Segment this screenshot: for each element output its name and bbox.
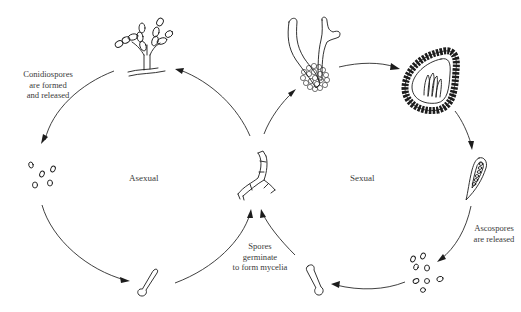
hyphae-fusing-icon xyxy=(288,17,340,91)
annotation-line: are formed xyxy=(13,80,83,91)
germinating-spore-right-icon xyxy=(306,265,323,295)
annotation-spores-germinate: Spores germinate to form mycelia xyxy=(224,241,296,273)
arrow-mycelium-to-hyphae xyxy=(264,89,296,134)
arrow-mycelium-to-conidiophore xyxy=(175,68,250,136)
mycelium-icon xyxy=(238,151,275,200)
conidiospores-icon xyxy=(28,162,56,188)
arrow-hyphae-to-ascocarp xyxy=(339,63,400,70)
ascospores-icon xyxy=(410,252,444,293)
annotation-line: germinate xyxy=(224,252,296,263)
annotation-conidiospores: Conidiospores are formed and released xyxy=(13,69,83,101)
label-sexual: Sexual xyxy=(350,173,375,184)
annotation-line: Conidiospores xyxy=(13,69,83,80)
annotation-ascospores: Ascospores are released xyxy=(466,223,521,244)
conidiophore-icon xyxy=(114,17,174,76)
ascus-icon xyxy=(466,158,487,200)
arrow-spores-to-germling xyxy=(42,205,130,283)
annotation-line: and released xyxy=(13,90,83,101)
ascocarp-icon xyxy=(405,51,456,111)
germinating-spore-left-icon xyxy=(138,269,158,296)
arrow-ascocarp-to-ascus xyxy=(455,111,474,150)
arrow-ascospores-to-germling xyxy=(331,281,405,289)
annotation-line: Ascospores xyxy=(466,223,521,234)
life-cycle-diagram: Asexual Sexual Conidiospores are formed … xyxy=(0,0,521,312)
annotation-line: are released xyxy=(466,234,521,245)
annotation-line: Spores xyxy=(224,241,296,252)
annotation-line: to form mycelia xyxy=(224,262,296,273)
label-asexual: Asexual xyxy=(129,173,159,184)
